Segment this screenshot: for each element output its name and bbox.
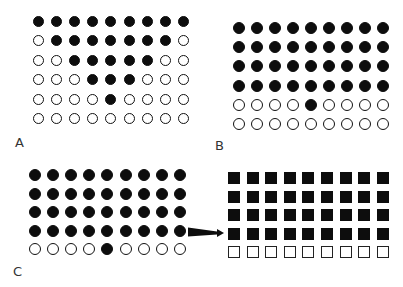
- dot-filled: [65, 188, 77, 200]
- dot-filled: [124, 74, 135, 85]
- dot-empty: [83, 243, 95, 255]
- dot-filled: [156, 188, 168, 200]
- dot-filled: [305, 80, 317, 92]
- square-filled: [265, 228, 277, 240]
- square-filled: [228, 172, 240, 184]
- dot-filled: [341, 60, 353, 72]
- dot-empty: [105, 113, 116, 124]
- dot-filled: [359, 60, 371, 72]
- dot-filled: [251, 60, 263, 72]
- dot-filled: [105, 55, 116, 66]
- dot-filled: [29, 206, 41, 218]
- dot-filled: [323, 41, 335, 53]
- dot-empty: [33, 74, 44, 85]
- square-empty: [284, 246, 296, 258]
- dot-filled: [341, 22, 353, 34]
- dot-filled: [174, 169, 186, 181]
- dot-filled: [287, 22, 299, 34]
- dot-filled: [142, 35, 153, 46]
- dot-empty: [269, 118, 281, 130]
- panel-b-label: B: [215, 139, 224, 152]
- square-filled: [302, 228, 314, 240]
- dot-filled: [323, 80, 335, 92]
- dot-filled: [69, 16, 80, 27]
- dot-filled: [105, 35, 116, 46]
- dot-empty: [69, 74, 80, 85]
- dot-filled: [47, 169, 59, 181]
- square-filled: [265, 209, 277, 221]
- dot-filled: [287, 80, 299, 92]
- square-filled: [284, 209, 296, 221]
- dot-filled: [120, 206, 132, 218]
- square-filled: [377, 228, 389, 240]
- panel-a-label: A: [15, 136, 24, 149]
- dot-filled: [359, 22, 371, 34]
- square-filled: [358, 228, 370, 240]
- dot-filled: [174, 206, 186, 218]
- square-filled: [321, 209, 333, 221]
- dot-filled: [233, 41, 245, 53]
- dot-empty: [287, 118, 299, 130]
- square-filled: [377, 172, 389, 184]
- dot-filled: [269, 80, 281, 92]
- dot-filled: [305, 99, 317, 111]
- dot-empty: [377, 99, 389, 111]
- dot-filled: [69, 35, 80, 46]
- dot-empty: [51, 55, 62, 66]
- square-filled: [358, 191, 370, 203]
- dot-empty: [142, 74, 153, 85]
- dot-empty: [160, 113, 171, 124]
- dot-filled: [101, 169, 113, 181]
- dot-empty: [359, 118, 371, 130]
- dot-empty: [33, 94, 44, 105]
- square-filled: [358, 209, 370, 221]
- dot-empty: [160, 74, 171, 85]
- dot-empty: [29, 243, 41, 255]
- dot-empty: [178, 94, 189, 105]
- dot-empty: [33, 35, 44, 46]
- square-empty: [247, 246, 259, 258]
- dot-empty: [47, 243, 59, 255]
- dot-filled: [305, 22, 317, 34]
- dot-filled: [124, 55, 135, 66]
- dot-filled: [87, 74, 98, 85]
- dot-filled: [138, 225, 150, 237]
- dot-empty: [178, 113, 189, 124]
- dot-filled: [138, 169, 150, 181]
- dot-empty: [124, 113, 135, 124]
- panel-c-label: C: [13, 265, 22, 278]
- dot-filled: [377, 22, 389, 34]
- dot-filled: [120, 225, 132, 237]
- square-filled: [377, 209, 389, 221]
- dot-empty: [323, 99, 335, 111]
- dot-empty: [138, 243, 150, 255]
- dot-filled: [341, 80, 353, 92]
- dot-empty: [124, 94, 135, 105]
- square-empty: [321, 246, 333, 258]
- dot-filled: [47, 225, 59, 237]
- dot-empty: [142, 94, 153, 105]
- square-filled: [302, 172, 314, 184]
- dot-filled: [29, 188, 41, 200]
- dot-empty: [174, 243, 186, 255]
- dot-empty: [69, 113, 80, 124]
- dot-empty: [120, 243, 132, 255]
- dot-filled: [101, 206, 113, 218]
- dot-filled: [124, 16, 135, 27]
- square-filled: [247, 228, 259, 240]
- square-filled: [377, 191, 389, 203]
- square-filled: [247, 172, 259, 184]
- dot-empty: [69, 94, 80, 105]
- square-empty: [377, 246, 389, 258]
- dot-filled: [87, 16, 98, 27]
- square-filled: [284, 228, 296, 240]
- square-filled: [340, 191, 352, 203]
- dot-filled: [65, 206, 77, 218]
- dot-empty: [87, 94, 98, 105]
- dot-filled: [47, 188, 59, 200]
- dot-filled: [160, 35, 171, 46]
- dot-filled: [174, 188, 186, 200]
- square-filled: [340, 228, 352, 240]
- dot-empty: [251, 118, 263, 130]
- dot-empty: [269, 99, 281, 111]
